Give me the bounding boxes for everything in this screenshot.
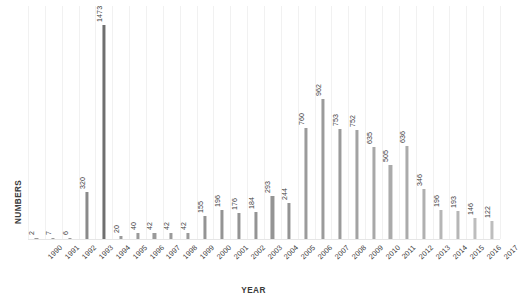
x-axis-label: 2008	[350, 243, 368, 261]
bar-group[interactable]: 122	[483, 6, 500, 239]
bar[interactable]	[372, 147, 375, 239]
bars-layer: 2763201473204042424215519617618429324476…	[28, 6, 500, 239]
bar[interactable]	[102, 25, 105, 240]
x-axis-label: 2012	[417, 243, 435, 261]
bar-group[interactable]: 244	[281, 6, 298, 239]
bar-group[interactable]: 155	[197, 6, 214, 239]
bar-value-label: 193	[450, 196, 458, 208]
x-axis-label: 1991	[63, 243, 81, 261]
x-axis-label: 2015	[468, 243, 486, 261]
bar[interactable]	[288, 203, 291, 239]
bar-group[interactable]: 293	[264, 6, 281, 239]
bar[interactable]	[203, 216, 206, 239]
bar-group[interactable]: 20	[112, 6, 129, 239]
x-axis-label: 1993	[97, 243, 115, 261]
plot-area: 2763201473204042424215519617618429324476…	[28, 6, 500, 239]
bar-value-label: 346	[416, 173, 424, 185]
bar[interactable]	[85, 192, 88, 239]
bar-group[interactable]: 42	[146, 6, 163, 239]
bar-value-label: 1473	[96, 5, 104, 21]
bar-value-label: 196	[214, 195, 222, 207]
bar-group[interactable]: 7	[45, 6, 62, 239]
x-axis-label: 2017	[501, 243, 519, 261]
bar[interactable]	[338, 129, 341, 239]
bar-group[interactable]: 196	[213, 6, 230, 239]
x-axis-label: 2011	[400, 243, 418, 261]
x-axis-label: 2004	[282, 243, 300, 261]
bar[interactable]	[473, 218, 476, 239]
x-axis-label: 1992	[80, 243, 98, 261]
bar-value-label: 42	[180, 222, 188, 230]
x-axis-label: 2016	[485, 243, 503, 261]
bar-value-label: 184	[248, 197, 256, 209]
bar[interactable]	[321, 99, 324, 239]
bar-group[interactable]: 753	[331, 6, 348, 239]
bar-value-label: 2	[28, 231, 36, 235]
x-axis-label: 2003	[265, 243, 283, 261]
bar-value-label: 505	[382, 150, 390, 162]
bar[interactable]	[439, 210, 442, 239]
bar[interactable]	[237, 213, 240, 239]
x-axis-label: 2010	[383, 243, 401, 261]
bar-group[interactable]: 193	[449, 6, 466, 239]
bar[interactable]	[389, 165, 392, 239]
bar-value-label: 636	[399, 131, 407, 143]
x-axis-label: 2001	[232, 243, 250, 261]
x-axis-label: 1996	[147, 243, 165, 261]
x-axis-label: 2013	[434, 243, 452, 261]
bar-group[interactable]: 40	[129, 6, 146, 239]
bar[interactable]	[271, 196, 274, 239]
y-axis-title: NUMBERS	[14, 180, 23, 224]
x-axis-label: 1997	[164, 243, 182, 261]
x-axis-label: 2005	[299, 243, 317, 261]
bar-value-label: 146	[467, 203, 475, 215]
x-axis-label: 2007	[333, 243, 351, 261]
bar-group[interactable]: 752	[348, 6, 365, 239]
bar-group[interactable]: 636	[399, 6, 416, 239]
bar[interactable]	[456, 211, 459, 239]
bar-group[interactable]: 505	[382, 6, 399, 239]
bar-value-label: 155	[197, 201, 205, 213]
bar-value-label: 42	[163, 222, 171, 230]
bar-value-label: 6	[62, 231, 70, 235]
bar[interactable]	[423, 189, 426, 239]
bar-group[interactable]: 42	[180, 6, 197, 239]
bar-value-label: 20	[113, 225, 121, 233]
bar-group[interactable]: 346	[416, 6, 433, 239]
bar-group[interactable]: 176	[230, 6, 247, 239]
bar-group[interactable]: 760	[298, 6, 315, 239]
bar-group[interactable]: 962	[315, 6, 332, 239]
bar[interactable]	[305, 128, 308, 239]
bar[interactable]	[355, 130, 358, 240]
bar-value-label: 962	[315, 84, 323, 96]
gridline	[500, 6, 501, 239]
bar-group[interactable]: 1473	[95, 6, 112, 239]
bar[interactable]	[406, 146, 409, 239]
bar-group[interactable]: 635	[365, 6, 382, 239]
bar-group[interactable]: 146	[466, 6, 483, 239]
x-axis-label: 1990	[46, 243, 64, 261]
bar-group[interactable]: 320	[79, 6, 96, 239]
x-axis-tick-labels: 1990199119921993199419951996199719981999…	[28, 241, 500, 281]
bar-value-label: 753	[332, 114, 340, 126]
bar-value-label: 7	[45, 231, 53, 235]
x-axis-label: 2000	[215, 243, 233, 261]
bar-group[interactable]: 6	[62, 6, 79, 239]
bar-value-label: 320	[79, 177, 87, 189]
bar-group[interactable]: 184	[247, 6, 264, 239]
bar[interactable]	[220, 210, 223, 239]
bar-group[interactable]: 196	[433, 6, 450, 239]
bar-group[interactable]: 2	[28, 6, 45, 239]
bar-group[interactable]: 42	[163, 6, 180, 239]
x-axis-title: YEAR	[0, 286, 507, 295]
x-axis-label: 1995	[131, 243, 149, 261]
axis-baseline	[28, 239, 500, 240]
bar-value-label: 293	[264, 181, 272, 193]
bar-value-label: 122	[484, 206, 492, 218]
x-axis-label: 2006	[316, 243, 334, 261]
bar-value-label: 752	[349, 114, 357, 126]
bar[interactable]	[490, 221, 493, 239]
bar-value-label: 196	[433, 195, 441, 207]
bar[interactable]	[254, 212, 257, 239]
